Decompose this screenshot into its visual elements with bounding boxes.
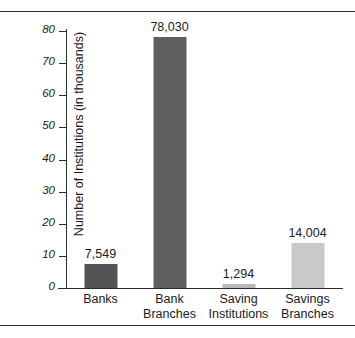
y-tick-mark — [59, 288, 66, 289]
x-category-line: Branches — [273, 307, 342, 322]
y-tick-label: 20 — [42, 216, 55, 228]
y-tick-label: 70 — [42, 55, 55, 67]
bar-value-label: 14,004 — [288, 226, 326, 240]
x-category-line: Saving — [204, 292, 273, 307]
bar-chart-figure: Number of Institutions (in thousands) 01… — [0, 0, 355, 338]
y-tick-mark — [59, 63, 66, 64]
y-tick-mark — [59, 224, 66, 225]
y-tick-mark — [59, 95, 66, 96]
bar-slot: 78,030 — [135, 31, 204, 288]
bar[interactable] — [222, 284, 255, 288]
x-category-label: Banks — [66, 292, 135, 307]
bar-slot: 14,004 — [273, 31, 342, 288]
bar[interactable] — [84, 264, 117, 288]
y-tick-label: 0 — [49, 280, 55, 292]
y-tick-label: 40 — [42, 152, 55, 164]
plot-area: Number of Institutions (in thousands) 01… — [66, 31, 342, 288]
y-tick-mark — [59, 31, 66, 32]
x-category-label: SavingInstitutions — [204, 292, 273, 321]
x-category-label: BankBranches — [135, 292, 204, 321]
bar-value-label: 7,549 — [85, 247, 116, 261]
y-tick-mark — [59, 160, 66, 161]
bar-value-label: 78,030 — [150, 20, 188, 34]
y-tick-mark — [59, 127, 66, 128]
x-axis-category-labels: BanksBankBranchesSavingInstitutionsSavin… — [66, 292, 342, 334]
bar-slot: 1,294 — [204, 31, 273, 288]
x-category-line: Institutions — [204, 307, 273, 322]
x-category-label: SavingsBranches — [273, 292, 342, 321]
y-tick-label: 30 — [42, 184, 55, 196]
bar[interactable] — [291, 243, 324, 288]
x-axis-line — [58, 288, 343, 289]
bar[interactable] — [153, 37, 186, 288]
y-tick-label: 60 — [42, 87, 55, 99]
y-tick-mark — [59, 192, 66, 193]
x-category-line: Bank — [135, 292, 204, 307]
x-category-line: Banks — [66, 292, 135, 307]
x-category-line: Savings — [273, 292, 342, 307]
y-tick-label: 50 — [42, 119, 55, 131]
bar-series: 7,54978,0301,29414,004 — [66, 31, 342, 288]
y-tick-label: 80 — [42, 23, 55, 35]
y-tick-mark — [59, 256, 66, 257]
bar-value-label: 1,294 — [223, 267, 254, 281]
y-tick-label: 10 — [42, 248, 55, 260]
x-category-line: Branches — [135, 307, 204, 322]
top-divider-rule — [0, 11, 355, 12]
bar-slot: 7,549 — [66, 31, 135, 288]
